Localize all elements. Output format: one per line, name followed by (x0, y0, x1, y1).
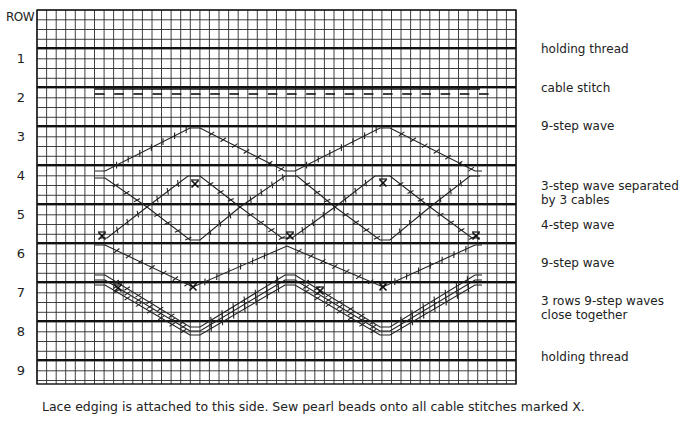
legend-label: 9-step wave (541, 119, 614, 133)
legend-label: 4-step wave (541, 218, 614, 232)
legend-label: 3-step wave separated by 3 cables (541, 179, 679, 207)
row-number-label: 9 (8, 363, 34, 378)
legend-label: holding thread (541, 42, 629, 56)
legend-label: cable stitch (541, 81, 610, 95)
row-number-label: 2 (8, 90, 34, 105)
row-number-label: 5 (8, 207, 34, 222)
row-number-label: 3 (8, 129, 34, 144)
row-number-label: 4 (8, 168, 34, 183)
row-number-label: 7 (8, 285, 34, 300)
legend-label: 9-step wave (541, 256, 614, 270)
row-column-header: ROW (6, 10, 34, 24)
grid-thin-lines (37, 10, 516, 384)
bead-x-markers (98, 179, 480, 295)
legend-label: holding thread (541, 350, 629, 364)
legend-label: 3 rows 9-step waves close together (541, 294, 664, 322)
chart-caption: Lace edging is attached to this side. Se… (42, 399, 585, 414)
row-number-label: 1 (8, 51, 34, 66)
row-number-label: 8 (8, 324, 34, 339)
row-number-label: 6 (8, 246, 34, 261)
